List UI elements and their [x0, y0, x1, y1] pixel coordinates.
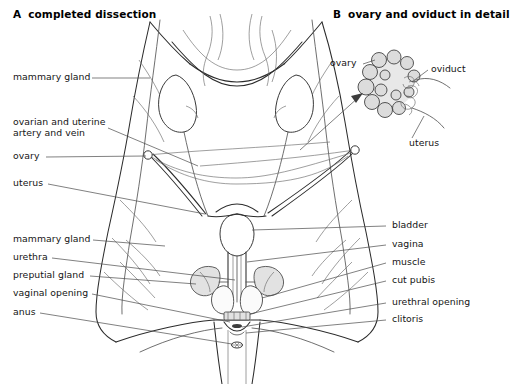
muscle-left	[211, 286, 233, 314]
kidney-right	[274, 75, 313, 132]
label-ovarian-uterine-line1: ovarian and uterine	[13, 117, 106, 128]
label-uterus: uterus	[13, 178, 43, 189]
label-ovarian-uterine-artery-vein: ovarian and uterine artery and vein	[13, 117, 106, 138]
label-bladder: bladder	[392, 220, 428, 231]
label-urethral-opening: urethral opening	[392, 297, 470, 308]
uterus-tube-upper	[416, 78, 450, 88]
uterus-tube-lower	[412, 108, 444, 128]
muscle-right	[240, 286, 262, 314]
ovarian-vessel-left	[148, 142, 330, 155]
label-anus: anus	[13, 307, 36, 318]
label-vagina: vagina	[392, 239, 424, 250]
label-ovary-detail: ovary	[330, 58, 356, 69]
urethral-opening-mark	[232, 324, 242, 328]
label-oviduct-detail: oviduct	[431, 64, 466, 75]
label-mammary-gland-upper: mammary gland	[13, 72, 90, 83]
uterine-horn-right	[268, 150, 354, 216]
bladder-organ	[220, 214, 254, 256]
label-mammary-gland-lower: mammary gland	[13, 234, 90, 245]
label-ovarian-uterine-line2: artery and vein	[13, 128, 106, 139]
label-muscle: muscle	[392, 257, 426, 268]
ovary-left-marker	[144, 151, 152, 159]
label-preputial-gland: preputial gland	[13, 270, 84, 281]
label-cut-pubis: cut pubis	[392, 275, 435, 286]
label-vaginal-opening: vaginal opening	[13, 288, 88, 299]
ovarian-vessel-right	[200, 150, 355, 166]
label-ovary: ovary	[13, 151, 39, 162]
body-outline-group	[96, 14, 378, 384]
ovary-right-marker	[351, 146, 359, 154]
broad-ligament	[150, 152, 354, 178]
ureter-right	[264, 132, 288, 216]
clitoris-mark	[230, 332, 244, 335]
label-urethra: urethra	[13, 252, 48, 263]
label-clitoris: clitoris	[392, 314, 423, 325]
label-uterus-detail: uterus	[409, 138, 439, 149]
kidney-left	[159, 75, 198, 132]
